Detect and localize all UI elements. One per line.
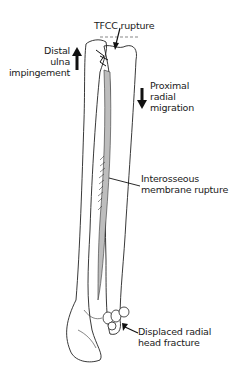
interosseous-membrane <box>98 70 111 300</box>
ulna-proximal-detail <box>78 310 102 348</box>
interosseous-label: Interosseous membrane rupture <box>141 173 228 195</box>
proximal-radial-line-3: migration <box>150 102 194 113</box>
distal-ulna-line-2: ulna <box>8 56 70 67</box>
interosseous-pointer-line <box>109 178 140 186</box>
proximal-radial-label: Proximal radial migration <box>150 80 194 113</box>
down-arrow-icon <box>137 88 147 109</box>
tfcc-rupture-text: TFCC rupture <box>94 20 154 31</box>
tfcc-rupture-label: TFCC rupture <box>94 20 154 31</box>
radial-head-label: Displaced radial head fracture <box>138 326 211 348</box>
ulna-bone <box>67 40 107 362</box>
radial-head-line-2: head fracture <box>138 337 211 348</box>
distal-ulna-line-1: Distal <box>8 45 70 56</box>
proximal-radial-line-2: radial <box>150 91 194 102</box>
radial-head-line-1: Displaced radial <box>138 326 211 337</box>
distal-ulna-label: Distal ulna impingement <box>8 45 70 78</box>
proximal-radial-line-1: Proximal <box>150 80 194 91</box>
interosseous-line-1: Interosseous <box>141 173 228 184</box>
distal-ulna-line-3: impingement <box>8 67 70 78</box>
radial-head-pointer-arrow <box>122 323 138 333</box>
interosseous-line-2: membrane rupture <box>141 184 228 195</box>
up-arrow-icon <box>72 47 82 70</box>
